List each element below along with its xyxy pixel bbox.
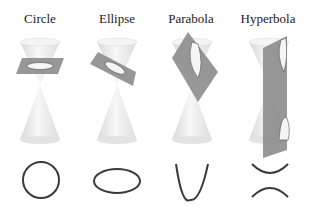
hyperbola-cone-figure xyxy=(249,36,289,197)
parabola-curve xyxy=(176,164,208,201)
parabola-cone-figure xyxy=(172,32,218,201)
hyperbola-upper-branch xyxy=(252,164,288,173)
circle-curve xyxy=(23,162,59,198)
hyperbola-lower-branch xyxy=(252,188,288,197)
circle-cone-figure xyxy=(16,38,64,198)
lower-nappe xyxy=(20,85,60,140)
ellipse-cone-figure xyxy=(90,38,140,193)
conic-diagram xyxy=(0,0,309,208)
ellipse-curve xyxy=(94,169,140,193)
